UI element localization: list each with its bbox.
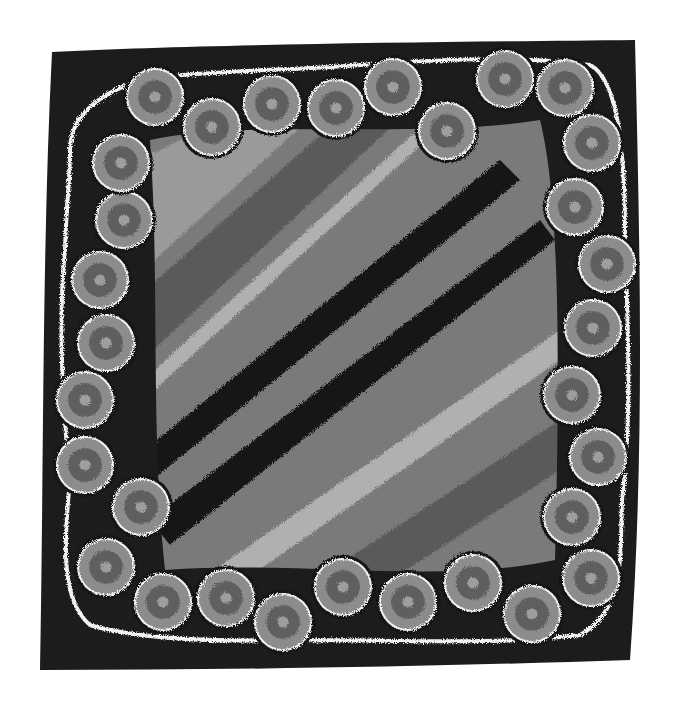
- border-dot: [540, 363, 604, 427]
- border-dot: [441, 551, 505, 615]
- border-dot: [92, 188, 156, 252]
- border-dot: [543, 175, 607, 239]
- border-dot: [74, 311, 138, 375]
- border-dot: [240, 72, 304, 136]
- border-dot: [194, 566, 258, 630]
- border-dot: [376, 570, 440, 634]
- border-dot: [500, 582, 564, 646]
- border-dot: [311, 555, 375, 619]
- border-dot: [559, 546, 623, 610]
- photo-scarf: [0, 0, 674, 702]
- border-dot: [304, 76, 368, 140]
- border-dot: [53, 433, 117, 497]
- border-dot: [415, 99, 479, 163]
- border-dot: [575, 232, 639, 296]
- border-dot: [251, 590, 315, 654]
- border-dot: [533, 56, 597, 120]
- border-dot: [560, 111, 624, 175]
- border-dot: [89, 131, 153, 195]
- border-dot: [123, 65, 187, 129]
- scarf-illustration: [0, 0, 674, 702]
- border-dot: [109, 475, 173, 539]
- border-dot: [566, 425, 630, 489]
- border-dot: [540, 485, 604, 549]
- border-dot: [53, 368, 117, 432]
- border-dot: [131, 570, 195, 634]
- border-dot: [561, 296, 625, 360]
- border-dot: [361, 55, 425, 119]
- border-dot: [74, 535, 138, 599]
- border-dot: [473, 47, 537, 111]
- border-dot: [68, 248, 132, 312]
- border-dot: [180, 95, 244, 159]
